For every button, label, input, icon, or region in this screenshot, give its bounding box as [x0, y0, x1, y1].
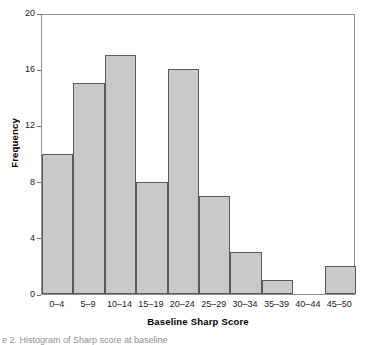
histogram-bar [42, 154, 73, 295]
plot-area [41, 14, 355, 295]
histogram-bar [136, 182, 167, 294]
bars-layer [42, 15, 354, 294]
figure-caption: e 2. Histogram of Sharp score at baselin… [2, 335, 282, 345]
histogram-bar [199, 196, 230, 294]
x-axis: 0–45–910–1415–1920–2425–2930–3435–3940–4… [41, 295, 355, 315]
x-tick-label: 30–34 [229, 299, 260, 310]
y-tick-label: 8 [30, 177, 35, 188]
x-tick-label: 25–29 [198, 299, 229, 310]
histogram-bar [73, 83, 104, 294]
histogram-bar [325, 266, 356, 294]
y-axis: 048121620 [0, 0, 41, 296]
x-tick-label: 40–44 [292, 299, 323, 310]
x-tick-label: 20–24 [167, 299, 198, 310]
y-tick-label: 20 [25, 8, 35, 19]
x-tick-label: 10–14 [104, 299, 135, 310]
x-tick-label: 15–19 [135, 299, 166, 310]
histogram-bar [105, 55, 136, 294]
x-tick-label: 45–50 [324, 299, 355, 310]
histogram-bar [262, 280, 293, 294]
x-tick-label: 35–39 [261, 299, 292, 310]
histogram-bar [168, 69, 199, 294]
y-tick-label: 4 [30, 233, 35, 244]
y-tick-label: 0 [30, 289, 35, 300]
x-axis-title: Baseline Sharp Score [41, 316, 355, 327]
y-tick-label: 16 [25, 64, 35, 75]
histogram-figure: Frequency 048121620 0–45–910–1415–1920–2… [0, 0, 365, 345]
x-tick-label: 5–9 [72, 299, 103, 310]
x-tick-label: 0–4 [41, 299, 72, 310]
histogram-bar [230, 252, 261, 294]
y-tick-label: 12 [25, 120, 35, 131]
